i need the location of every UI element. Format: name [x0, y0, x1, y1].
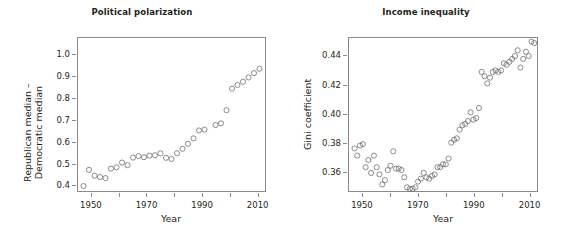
data-point	[416, 179, 421, 184]
y-tick-label: 1.0	[47, 49, 70, 59]
data-point	[114, 165, 119, 170]
x-tick-major	[146, 193, 147, 197]
x-tick-label: 1950	[351, 200, 373, 210]
data-point	[402, 175, 407, 180]
y-tick-major	[72, 142, 76, 143]
x-tick-label: 1990	[191, 200, 213, 210]
y-tick-major	[72, 54, 76, 55]
data-point	[418, 176, 423, 181]
data-point	[526, 53, 531, 58]
figure-panel-pair: Political polarization 19501970199020100…	[0, 0, 568, 244]
data-point	[371, 153, 376, 158]
y-tick-major	[72, 120, 76, 121]
data-point	[202, 127, 207, 132]
data-point	[391, 149, 396, 154]
data-point	[191, 136, 196, 141]
x-tick-major	[202, 193, 203, 197]
data-point	[510, 56, 515, 61]
data-point	[196, 128, 201, 133]
data-point	[97, 174, 102, 179]
data-point	[103, 176, 108, 181]
plot-frame-right	[348, 37, 538, 192]
data-point	[515, 48, 520, 53]
x-tick-minor	[119, 193, 120, 197]
panel-income-inequality: Income inequality 19501970199020100.360.…	[284, 0, 568, 244]
data-point	[468, 110, 473, 115]
data-point	[363, 165, 368, 170]
chart-title-left: Political polarization	[0, 7, 284, 17]
data-point	[377, 172, 382, 177]
data-point	[136, 154, 141, 159]
x-tick-major	[530, 193, 531, 197]
data-point	[185, 141, 190, 146]
x-tick-label: 1990	[463, 200, 485, 210]
y-tick-label: 0.42	[318, 80, 341, 90]
data-point	[229, 86, 234, 91]
x-tick-label: 1970	[136, 200, 158, 210]
y-tick-label: 0.40	[318, 109, 341, 119]
data-point	[476, 105, 481, 110]
data-point	[119, 160, 124, 165]
x-tick-minor	[446, 193, 447, 197]
y-tick-label: 0.7	[47, 115, 70, 125]
data-point	[382, 178, 387, 183]
chart-title-right: Income inequality	[284, 7, 568, 17]
x-tick-major	[418, 193, 419, 197]
data-point	[485, 81, 490, 86]
data-point	[449, 140, 454, 145]
data-point	[125, 163, 130, 168]
y-tick-major	[72, 98, 76, 99]
y-tick-major	[72, 76, 76, 77]
data-point	[141, 155, 146, 160]
data-point	[174, 151, 179, 156]
data-point	[169, 156, 174, 161]
data-point	[147, 153, 152, 158]
data-point	[352, 146, 357, 151]
y-tick-major	[343, 114, 347, 115]
data-point	[246, 75, 251, 80]
data-point	[366, 157, 371, 162]
data-point	[152, 153, 157, 158]
data-point	[521, 56, 526, 61]
x-tick-minor	[390, 193, 391, 197]
plot-frame-left	[77, 37, 266, 192]
data-point	[86, 167, 91, 172]
data-point	[235, 82, 240, 87]
data-point	[163, 155, 168, 160]
data-point	[108, 166, 113, 171]
data-point	[158, 151, 163, 156]
data-point	[374, 165, 379, 170]
y-tick-label: 0.5	[47, 159, 70, 169]
x-tick-major	[474, 193, 475, 197]
y-axis-title-left: Republican median – Democratic median	[22, 83, 44, 182]
data-point	[482, 74, 487, 79]
x-tick-major	[91, 193, 92, 197]
y-tick-label: 0.44	[318, 50, 341, 60]
y-axis-title-left-line2: Democratic median	[33, 86, 44, 179]
data-point	[218, 121, 223, 126]
y-tick-major	[343, 172, 347, 173]
y-tick-label: 0.9	[47, 71, 70, 81]
data-point	[465, 118, 470, 123]
data-point	[130, 155, 135, 160]
data-point	[92, 173, 97, 178]
x-tick-label: 1970	[407, 200, 429, 210]
y-tick-label: 0.4	[47, 180, 70, 190]
data-point	[355, 153, 360, 158]
y-tick-major	[343, 85, 347, 86]
scatter-points-left	[78, 38, 265, 191]
y-axis-title-left-line1: Republican median –	[22, 83, 33, 182]
x-tick-major	[258, 193, 259, 197]
data-point	[257, 66, 262, 71]
y-tick-major	[343, 55, 347, 56]
data-point	[224, 108, 229, 113]
x-tick-label: 2010	[519, 200, 541, 210]
y-tick-label: 0.38	[318, 138, 341, 148]
data-point	[487, 75, 492, 80]
data-point	[240, 79, 245, 84]
x-tick-minor	[174, 193, 175, 197]
panel-political-polarization: Political polarization 19501970199020100…	[0, 0, 284, 244]
data-point	[507, 59, 512, 64]
x-tick-major	[362, 193, 363, 197]
data-point	[180, 146, 185, 151]
